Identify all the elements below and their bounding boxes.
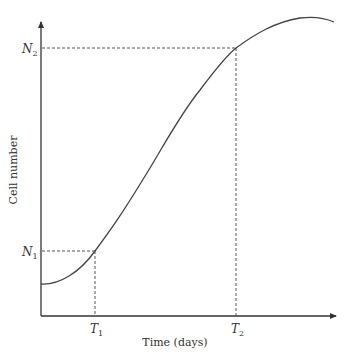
growth-curve bbox=[41, 17, 334, 284]
growth-curve-chart: N2 N1 T1 T2 Time (days) Cell number bbox=[0, 0, 350, 352]
n2-t2-guides bbox=[42, 48, 236, 316]
y-axis-label: Cell number bbox=[7, 135, 20, 205]
x-axis-label: Time (days) bbox=[142, 336, 207, 349]
y-tick-n1: N1 bbox=[21, 245, 38, 261]
x-tick-t1: T1 bbox=[90, 322, 103, 338]
y-tick-n2: N2 bbox=[21, 42, 38, 58]
x-tick-t2: T2 bbox=[231, 322, 244, 338]
